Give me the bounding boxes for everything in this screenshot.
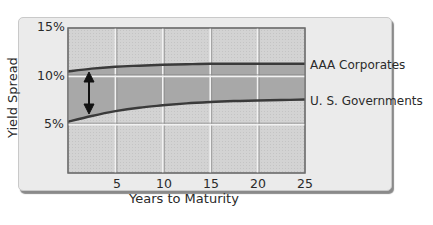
x-tick-20: 20 [250, 176, 266, 191]
x-tick-15: 15 [203, 176, 219, 191]
x-tick-10: 10 [156, 176, 172, 191]
y-tick-5: 5% [44, 116, 64, 131]
x-axis-label: Years to Maturity [129, 191, 239, 206]
y-tick-10: 10% [37, 68, 65, 83]
x-tick-5: 5 [113, 176, 121, 191]
legend-us-governments: U. S. Governments [310, 94, 423, 108]
legend-aaa-corporates: AAA Corporates [310, 58, 405, 72]
y-tick-15: 15% [37, 19, 65, 34]
x-tick-25: 25 [297, 176, 313, 191]
y-axis-label: Yield Spread [5, 57, 20, 138]
